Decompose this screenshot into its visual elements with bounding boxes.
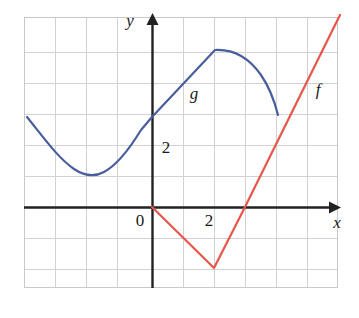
plot-background <box>24 17 338 288</box>
math-figure: y x 0 2 2 g f <box>0 0 359 318</box>
graph-canvas: y x 0 2 2 g f <box>0 0 359 318</box>
x-tick-label-2: 2 <box>205 211 214 230</box>
origin-tick-label: 0 <box>136 211 145 230</box>
y-tick-label-2: 2 <box>162 138 171 157</box>
x-axis-label: x <box>332 213 341 232</box>
y-axis-label: y <box>124 11 134 30</box>
curve-label-g: g <box>190 84 199 103</box>
